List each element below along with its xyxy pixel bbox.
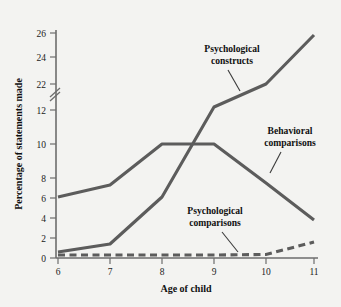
chart-container: 0 2 4 6 8 10 12 22 24 26 6 7 8 9 10 11 A…	[0, 0, 341, 307]
y-tick-label-24: 24	[37, 53, 47, 63]
annotation-psychological-comparisons-line1: Psychological	[187, 205, 243, 216]
y-tick-label-22: 22	[37, 80, 47, 90]
y-tick-label-26: 26	[37, 29, 47, 39]
annotation-behavioral-comparisons-line1: Behavioral	[268, 125, 313, 136]
x-axis-title: Age of child	[160, 283, 212, 294]
y-tick-label-4: 4	[41, 214, 46, 224]
x-tick-label-8: 8	[160, 267, 165, 277]
line-chart: 0 2 4 6 8 10 12 22 24 26 6 7 8 9 10 11 A…	[0, 0, 341, 307]
y-axis-title: Percentage of statements made	[13, 78, 24, 210]
x-tick-label-7: 7	[108, 267, 113, 277]
y-tick-label-10: 10	[37, 140, 47, 150]
x-tick-label-10: 10	[261, 267, 271, 277]
annotation-psychological-constructs-line1: Psychological	[204, 43, 260, 54]
y-tick-label-0: 0	[41, 254, 46, 264]
x-tick-label-11: 11	[309, 267, 318, 277]
y-tick-label-8: 8	[41, 174, 46, 184]
y-tick-label-12: 12	[37, 106, 47, 116]
x-tick-label-6: 6	[56, 267, 61, 277]
x-tick-label-9: 9	[212, 267, 217, 277]
y-tick-label-2: 2	[41, 234, 46, 244]
y-tick-label-6: 6	[41, 194, 46, 204]
chart-background	[0, 0, 341, 307]
annotation-behavioral-comparisons-line2: comparisons	[264, 137, 316, 148]
annotation-psychological-constructs-line2: constructs	[211, 55, 253, 66]
annotation-psychological-comparisons-line2: comparisons	[189, 217, 241, 228]
